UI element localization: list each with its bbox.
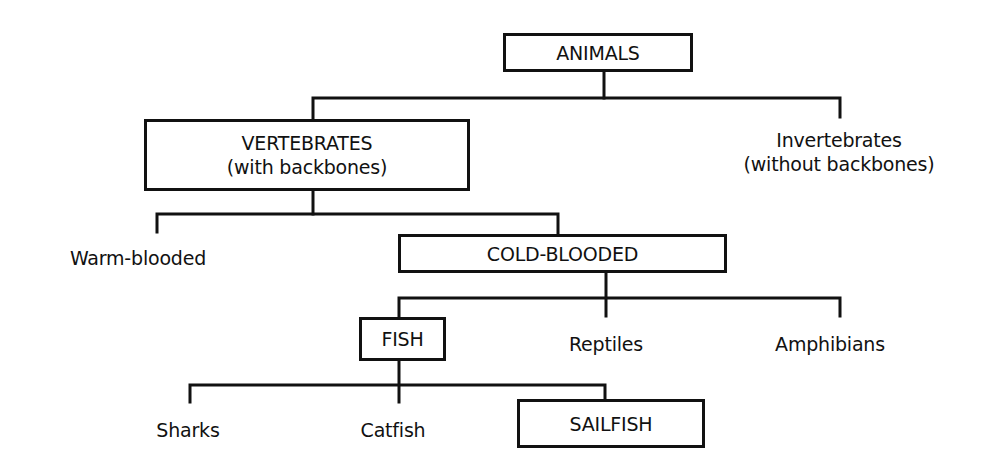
classification-diagram: ANIMALS VERTEBRATES (with backbones) Inv… xyxy=(0,0,989,468)
node-vertebrates-title: VERTEBRATES xyxy=(242,131,373,155)
node-cold-blooded: COLD-BLOODED xyxy=(398,234,727,273)
node-amphibians-label: Amphibians xyxy=(775,332,885,356)
node-animals: ANIMALS xyxy=(503,33,693,72)
node-catfish-label: Catfish xyxy=(361,418,426,442)
node-animals-label: ANIMALS xyxy=(556,41,639,65)
node-catfish: Catfish xyxy=(350,416,436,444)
node-fish: FISH xyxy=(359,317,446,361)
node-warm-blooded-label: Warm-blooded xyxy=(70,246,206,270)
node-warm-blooded: Warm-blooded xyxy=(50,244,226,272)
node-reptiles: Reptiles xyxy=(556,330,656,358)
node-sailfish-label: SAILFISH xyxy=(570,412,653,436)
node-invertebrates-title: Invertebrates xyxy=(776,128,901,152)
node-invertebrates: Invertebrates (without backbones) xyxy=(728,126,950,178)
connector-animals-branch xyxy=(313,98,840,120)
node-sharks: Sharks xyxy=(146,416,230,444)
connector-vertebrates-branch xyxy=(157,214,558,235)
node-sharks-label: Sharks xyxy=(156,418,219,442)
node-sailfish: SAILFISH xyxy=(517,399,705,448)
node-vertebrates-subtitle: (with backbones) xyxy=(227,155,387,179)
node-reptiles-label: Reptiles xyxy=(569,332,643,356)
connector-coldblooded-branch xyxy=(399,298,840,318)
node-invertebrates-subtitle: (without backbones) xyxy=(744,152,935,176)
node-fish-label: FISH xyxy=(381,327,423,351)
node-cold-blooded-label: COLD-BLOODED xyxy=(487,242,638,266)
node-vertebrates: VERTEBRATES (with backbones) xyxy=(144,119,470,191)
node-amphibians: Amphibians xyxy=(760,330,900,358)
